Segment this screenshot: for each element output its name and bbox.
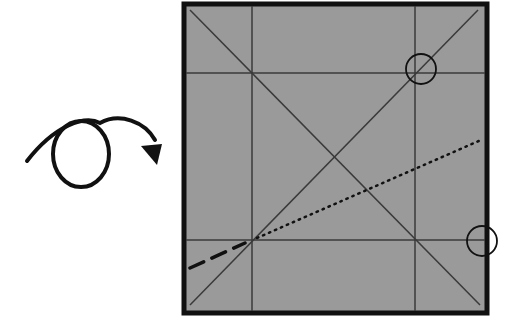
origami-diagram xyxy=(0,0,521,331)
turn-over-arrow-icon xyxy=(27,118,162,187)
